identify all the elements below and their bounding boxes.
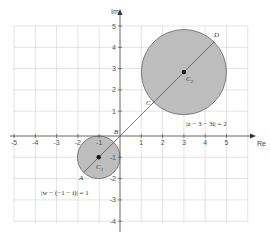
x-tick-label: -1 (96, 139, 102, 146)
point-d-label: D (213, 31, 219, 39)
point-b-label: B (114, 128, 119, 136)
y-tick-label: 4 (112, 44, 116, 51)
x-axis-label: Re (257, 140, 266, 147)
point-a-label: A (78, 174, 84, 182)
x-tick-label: 3 (182, 139, 186, 146)
equation-c2: |z − 3 − 3i| = 2 (186, 120, 227, 128)
y-tick-label: 3 (112, 65, 116, 72)
y-axis-label: Im (111, 8, 119, 15)
y-tick-label: 2 (112, 86, 116, 93)
x-tick-label: -2 (75, 139, 81, 146)
x-tick-label: 4 (203, 139, 207, 146)
y-tick-label: -3 (110, 196, 116, 203)
y-tick-label: -4 (110, 218, 116, 225)
y-tick-labels: 5 4 3 2 1 -1 -2 -3 -4 (110, 23, 116, 225)
y-tick-label: -1 (110, 154, 116, 161)
y-tick-label: -2 (110, 175, 116, 182)
x-tick-label: -4 (32, 139, 38, 146)
center-c1-dot (97, 155, 101, 159)
x-tick-label: 2 (161, 139, 165, 146)
complex-plane-diagram: -5 -4 -3 -2 -1 1 2 3 4 5 5 4 3 2 1 -1 -2… (0, 0, 270, 235)
x-tick-label: -5 (11, 139, 17, 146)
equation-c1: |w − (−1 − i)| = 1 (41, 189, 89, 197)
x-axis (10, 134, 256, 139)
point-c-label: C (146, 99, 151, 107)
x-tick-label: -3 (53, 139, 59, 146)
x-tick-label: 1 (139, 139, 143, 146)
y-axis (118, 9, 123, 232)
y-tick-label: 1 (112, 108, 116, 115)
center-c2-dot (182, 70, 186, 74)
x-tick-label: 5 (225, 139, 229, 146)
diagram-canvas: -5 -4 -3 -2 -1 1 2 3 4 5 5 4 3 2 1 -1 -2… (0, 0, 270, 235)
x-axis-arrow-icon (250, 134, 256, 139)
y-tick-label: 5 (112, 23, 116, 30)
